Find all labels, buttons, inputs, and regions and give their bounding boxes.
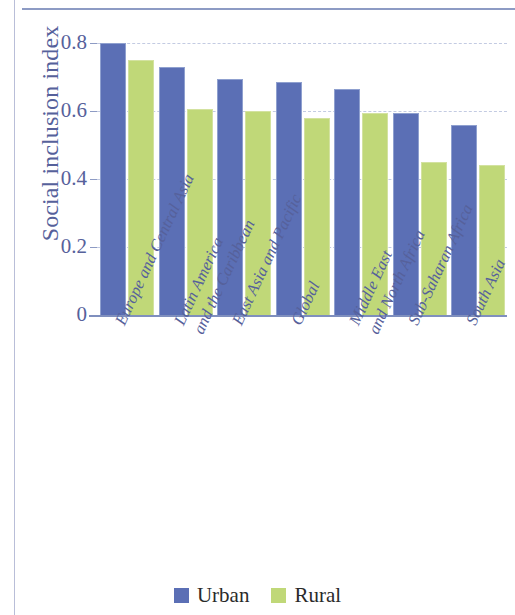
y-tick-label: 0.8: [61, 30, 87, 55]
x-axis-category-labels: Europe and Central AsiaLatin Americaand …: [97, 320, 507, 570]
legend-swatch-icon: [174, 588, 189, 603]
figure-top-rule: [22, 8, 515, 10]
legend-item-rural[interactable]: Rural: [271, 583, 341, 608]
y-tick-mark: [90, 179, 97, 180]
y-tick-mark: [90, 111, 97, 112]
bar-group: [276, 43, 330, 315]
bar-urban[interactable]: [100, 43, 126, 315]
chart-legend: UrbanRural: [0, 583, 515, 608]
y-tick-mark: [90, 43, 97, 44]
y-axis-title: Social inclusion index: [37, 0, 64, 279]
y-tick-label: 0.6: [61, 98, 87, 123]
y-tick-label: 0: [77, 302, 88, 327]
social-inclusion-index-chart: Social inclusion index 00.20.40.60.8 Eur…: [0, 0, 515, 615]
legend-item-urban[interactable]: Urban: [174, 583, 249, 608]
legend-swatch-icon: [271, 588, 286, 603]
figure-left-border: [14, 0, 15, 615]
legend-label: Rural: [294, 583, 341, 608]
bar-urban[interactable]: [334, 89, 360, 315]
y-tick-label: 0.2: [61, 234, 87, 259]
y-tick-mark: [90, 247, 97, 248]
y-tick-label: 0.4: [61, 166, 87, 191]
legend-label: Urban: [197, 583, 249, 608]
